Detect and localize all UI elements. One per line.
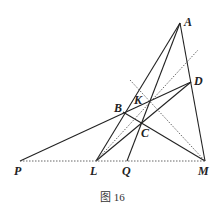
label-M: M (197, 164, 209, 178)
label-D: D (193, 74, 203, 88)
label-P: P (14, 164, 22, 178)
dotted-LK-extended (96, 50, 198, 161)
segment-AL (96, 23, 180, 161)
label-B: B (113, 101, 122, 115)
segment-LD (96, 82, 191, 161)
label-A: A (183, 15, 192, 29)
label-Q: Q (122, 164, 131, 178)
label-C: C (141, 126, 150, 140)
segment-BM (123, 112, 205, 161)
segment-AM (180, 23, 205, 161)
label-L: L (89, 164, 97, 178)
segment-PD (20, 82, 191, 161)
label-K: K (133, 93, 143, 107)
segment-AQ (127, 23, 180, 161)
figure-caption: 图 16 (100, 191, 125, 203)
geometry-figure: A D K B C P L Q M 图 16 (0, 0, 222, 215)
